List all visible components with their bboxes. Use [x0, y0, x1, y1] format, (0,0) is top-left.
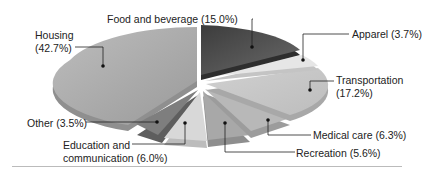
label-food: Food and beverage (15.0%) — [107, 13, 238, 25]
label-housing-line1: Housing — [35, 29, 74, 41]
label-recreation: Recreation (5.6%) — [296, 147, 381, 159]
bottom-rule — [12, 166, 402, 167]
label-apparel: Apparel (3.7%) — [352, 28, 422, 40]
label-medical: Medical care (6.3%) — [313, 129, 406, 141]
label-housing-line2: (42.7%) — [35, 42, 72, 54]
label-transportation-line1: Transportation — [336, 74, 403, 86]
label-other: Other (3.5%) — [27, 117, 87, 129]
label-education-line2: communication (6.0%) — [63, 152, 167, 164]
label-transportation-line2: (17.2%) — [336, 87, 373, 99]
label-education-line1: Education and — [63, 139, 130, 151]
